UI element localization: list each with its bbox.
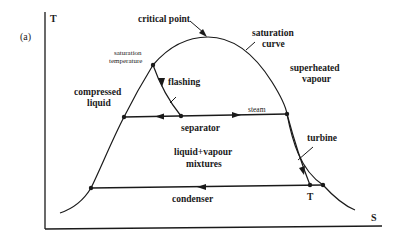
superheated-label-1: superheated	[290, 63, 340, 73]
separator-liquid-point	[122, 115, 126, 119]
mixture-label-2: mixtures	[186, 159, 222, 169]
turbine-label: turbine	[307, 133, 337, 143]
compressed-liquid-label-1: compressed	[74, 87, 122, 97]
saturation-curve-leader	[246, 42, 255, 50]
mixture-label-1: liquid+vapour	[174, 147, 233, 157]
isentropic-outlet-point	[321, 183, 325, 187]
saturation-curve-label-2: curve	[262, 39, 285, 49]
saturation-temperature-label-1: saturation	[114, 49, 142, 57]
y-axis-label: T	[50, 13, 57, 24]
turbine-expansion-line	[287, 114, 310, 185]
saturation-curve-label-1: saturation	[252, 28, 294, 38]
liquid-arrow-icon	[155, 114, 164, 120]
turbine-outlet-label: T	[307, 192, 314, 202]
turbine-outlet-point	[308, 183, 312, 187]
x-axis	[45, 226, 382, 229]
x-axis-label: S	[371, 212, 377, 223]
condenser-label: condenser	[172, 194, 214, 204]
saturation-temperature-label-2: temperature	[109, 57, 142, 65]
panel-label: (a)	[20, 31, 31, 43]
turbine-arrow-icon	[299, 166, 305, 175]
flashing-label: flashing	[168, 77, 200, 87]
steam-arrow-icon	[232, 112, 241, 118]
steam-label: steam	[248, 105, 266, 114]
separator-line	[124, 114, 287, 117]
turbine-leader	[298, 147, 313, 160]
superheated-label-2: vapour	[302, 74, 332, 84]
flashing-leader	[170, 97, 176, 103]
critical-point-label: critical point	[138, 14, 191, 24]
flashing-line	[153, 65, 181, 116]
condenser-arrow-icon	[197, 184, 206, 190]
flashing-arrow-icon	[158, 78, 165, 87]
separator-label: separator	[181, 123, 221, 133]
ts-diagram: (a) T S critical point saturation curve …	[0, 0, 400, 242]
condenser-outlet-point	[89, 186, 93, 190]
condenser-line	[91, 185, 323, 188]
compressed-liquid-label-2: liquid	[87, 98, 111, 108]
saturation-temperature-point	[151, 63, 155, 67]
separator-point	[179, 114, 183, 118]
separator-steam-point	[285, 112, 289, 116]
